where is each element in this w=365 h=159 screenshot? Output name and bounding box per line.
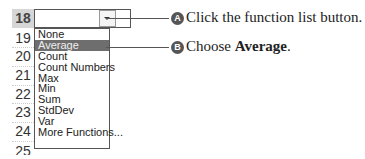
callout-b: BChoose Average. [171,38,291,55]
row-header-20[interactable]: 20 [12,48,34,64]
callout-b-prefix: Choose [186,38,235,54]
row-header-25[interactable]: 25 [12,143,34,155]
gridline [12,66,34,67]
function-option-count-numbers[interactable]: Count Numbers [35,62,109,73]
row-header-21[interactable]: 21 [12,67,34,83]
row-header-22[interactable]: 22 [12,86,34,102]
callout-b-suffix: . [287,38,291,54]
gridline [12,85,34,86]
callout-leader-a [106,18,169,19]
callout-a: AClick the function list button. [171,9,362,26]
gridline [12,122,34,123]
callout-a-text: Click the function list button. [186,9,362,25]
callout-leader-b [106,47,169,48]
gridline [12,141,34,142]
gridline [12,47,34,48]
row-header-19[interactable]: 19 [12,30,34,46]
badge-b-icon: B [171,41,184,54]
badge-a-icon: A [171,12,184,25]
gridline [12,103,34,104]
row-header-23[interactable]: 23 [12,104,34,120]
function-option-more-functions[interactable]: More Functions... [35,127,109,138]
callout-b-bold: Average [235,38,287,54]
function-dropdown-list[interactable]: None Average Count Count Numbers Max Min… [34,28,110,149]
row-header-18[interactable]: 18 [12,9,34,28]
row-header-24[interactable]: 24 [12,123,34,139]
